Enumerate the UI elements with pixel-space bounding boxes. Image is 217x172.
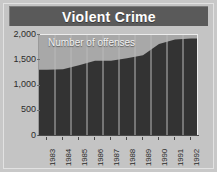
page-title: Violent Crime	[62, 10, 156, 24]
x-tick: 1991	[166, 137, 182, 169]
x-tick-mark	[46, 137, 47, 140]
x-axis-line	[38, 135, 199, 136]
chart-figure: Violent Crime Number of offenses 05001,0…	[0, 0, 217, 172]
x-axis: 1983198419851986198719881989199019911992	[38, 137, 198, 169]
y-axis: 05001,0001,5002,000	[4, 30, 36, 139]
y-tick-label: 1,000	[4, 80, 36, 89]
y-tick-label: 0	[4, 131, 36, 140]
area-chart-svg	[39, 35, 198, 135]
x-tick-mark	[158, 137, 159, 140]
x-tick: 1987	[102, 137, 118, 169]
y-tick-label: 500	[4, 105, 36, 114]
x-tick-mark	[190, 137, 191, 140]
x-tick: 1983	[38, 137, 54, 169]
x-tick: 1984	[54, 137, 70, 169]
y-tick-label: 1,500	[4, 55, 36, 64]
y-tick-mark	[37, 110, 40, 111]
x-tick: 1990	[150, 137, 166, 169]
x-tick-mark	[62, 137, 63, 140]
x-tick: 1992	[182, 137, 198, 169]
chart-title-band: Violent Crime	[9, 6, 208, 26]
x-tick-mark	[110, 137, 111, 140]
x-tick: 1988	[118, 137, 134, 169]
x-tick-mark	[174, 137, 175, 140]
x-tick-mark	[94, 137, 95, 140]
y-tick-mark	[37, 85, 40, 86]
x-tick: 1985	[70, 137, 86, 169]
series-annotation-label: Number of offenses	[48, 38, 135, 48]
x-tick: 1989	[134, 137, 150, 169]
y-tick-mark	[37, 59, 40, 60]
y-tick-mark	[37, 34, 40, 35]
y-tick-label: 2,000	[4, 30, 36, 39]
plot-area	[38, 34, 198, 135]
x-tick: 1986	[86, 137, 102, 169]
x-tick-mark	[126, 137, 127, 140]
x-tick-label: 1992	[193, 149, 201, 166]
x-tick-mark	[142, 137, 143, 140]
x-tick-mark	[78, 137, 79, 140]
